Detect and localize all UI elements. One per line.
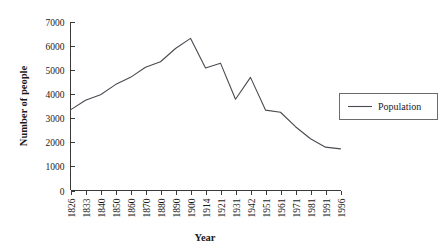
y-tick-label: 4000 <box>46 90 65 100</box>
x-tick-label: 1996 <box>337 198 347 217</box>
y-tick-label: 1000 <box>46 162 65 172</box>
x-tick-label: 1981 <box>307 198 317 217</box>
series-line-population <box>71 38 341 148</box>
y-tick-label: 3000 <box>46 114 65 124</box>
y-tick-label: 7000 <box>46 18 65 28</box>
legend-label-population: Population <box>378 101 421 112</box>
x-tick-label: 1921 <box>217 198 227 217</box>
y-tick-marks <box>71 23 75 192</box>
x-tick-label: 1880 <box>157 198 167 217</box>
y-tick-label: 0 <box>60 187 65 197</box>
x-tick-label: 1840 <box>97 198 107 217</box>
x-axis-title: Year <box>195 232 216 243</box>
x-tick-label: 1931 <box>232 198 242 217</box>
x-tick-labels: 1826183318401850186018701880189019001914… <box>67 198 347 217</box>
x-tick-label: 1951 <box>262 198 272 217</box>
y-tick-label: 5000 <box>46 66 65 76</box>
x-tick-label: 1870 <box>142 198 152 217</box>
plot-area <box>71 38 341 148</box>
y-tick-label: 6000 <box>46 42 65 52</box>
legend: Population <box>340 94 438 120</box>
chart-canvas: 01000200030004000500060007000 1826183318… <box>0 0 445 248</box>
x-tick-label: 1826 <box>67 198 77 217</box>
x-tick-label: 1914 <box>202 198 212 217</box>
population-line-chart: 01000200030004000500060007000 1826183318… <box>0 0 445 248</box>
x-axis-group: 1826183318401850186018701880189019001914… <box>67 191 347 218</box>
y-axis-group: 01000200030004000500060007000 <box>46 18 75 197</box>
x-tick-marks <box>72 191 342 195</box>
y-tick-label: 2000 <box>46 138 65 148</box>
y-tick-labels: 01000200030004000500060007000 <box>46 18 65 197</box>
y-axis-title: Number of people <box>18 66 29 147</box>
x-tick-label: 1942 <box>247 198 257 217</box>
x-tick-label: 1833 <box>82 198 92 217</box>
x-tick-label: 1900 <box>187 198 197 217</box>
x-tick-label: 1991 <box>322 198 332 217</box>
x-tick-label: 1890 <box>172 198 182 217</box>
x-tick-label: 1850 <box>112 198 122 217</box>
x-tick-label: 1961 <box>277 198 287 217</box>
x-tick-label: 1971 <box>292 198 302 217</box>
x-tick-label: 1860 <box>127 198 137 217</box>
